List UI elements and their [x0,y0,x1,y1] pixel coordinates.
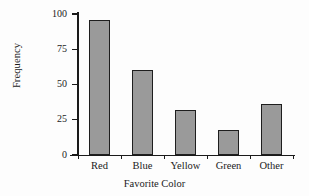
y-axis-tick-label: 100 [52,8,67,19]
x-axis-label-other: Other [260,160,284,171]
y-axis-tick-label: 25 [57,113,67,124]
x-axis-tick-mark [164,155,165,159]
x-axis-tick-mark [121,155,122,159]
x-axis-tick-mark [293,155,294,159]
y-axis-title: Frequency [11,21,22,111]
x-axis-label-green: Green [216,160,242,171]
x-axis-tick-mark [78,155,79,159]
x-axis-label-blue: Blue [133,160,153,171]
y-axis-tick-label: 0 [62,149,67,160]
y-axis-tick-label: 75 [57,43,67,54]
x-axis-title: Favorite Color [0,178,309,189]
x-axis-label-yellow: Yellow [171,160,201,171]
bar-chart: Frequency 0255075100 RedBlueYellowGreenO… [0,0,309,196]
y-axis-tick-label: 50 [57,78,67,89]
bar-green [218,130,239,155]
plot-area [78,14,293,155]
bar-yellow [175,110,196,155]
x-axis-tick-mark [250,155,251,159]
bar-other [261,104,282,155]
x-axis-label-red: Red [91,160,108,171]
bar-blue [132,70,153,155]
x-axis-tick-mark [207,155,208,159]
bar-red [89,20,110,155]
